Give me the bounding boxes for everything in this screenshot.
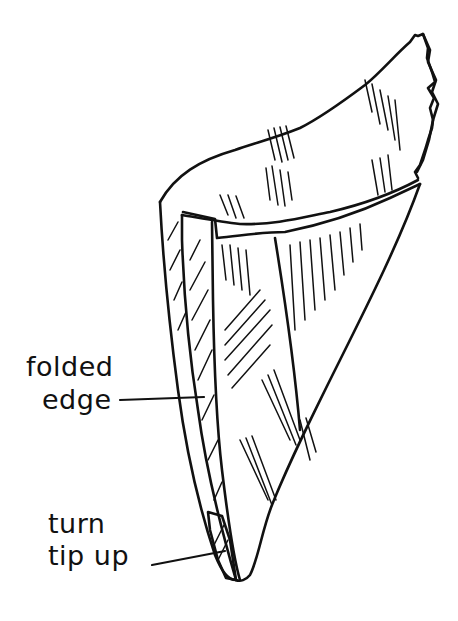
turn-tip-up-label-line1: turn: [48, 510, 105, 537]
folded-edge-label-line2: edge: [42, 386, 112, 413]
turn-tip-up-label-line2: tip up: [48, 542, 129, 569]
paper-top-outline: [160, 34, 435, 202]
cone-hatching: [168, 222, 362, 560]
folded-edge-label-line1: folded: [26, 353, 113, 380]
top-hatching: [220, 80, 400, 218]
turn-tip-up-leader: [152, 551, 225, 565]
illustration: folded edge turn tip up: [0, 0, 458, 621]
folded-edge-leader: [120, 397, 204, 400]
